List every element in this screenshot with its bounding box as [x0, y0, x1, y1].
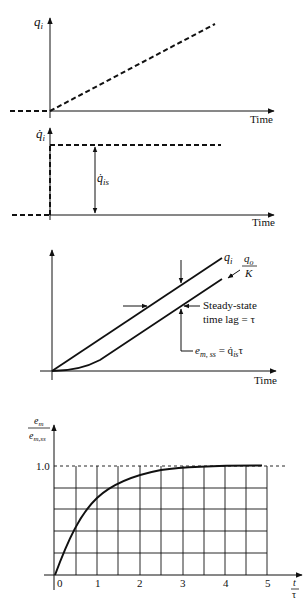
step-height-label: q̇is — [97, 171, 110, 187]
y-label-num: em — [34, 415, 44, 428]
svg-text:2: 2 — [137, 577, 143, 589]
x-axis-label: Time — [254, 374, 277, 386]
y-tick-1: 1.0 — [36, 460, 50, 472]
x-axis-label: Time — [250, 113, 273, 125]
grid — [54, 466, 267, 575]
panel-normalized-error: em em,ss 1.0 0 1 2 3 4 5 t τ — [28, 415, 302, 600]
y-axis-label: qi — [34, 14, 44, 31]
panel-ramp-input: qi Time — [10, 14, 274, 125]
ramp-line — [50, 24, 215, 111]
svg-text:5: 5 — [265, 577, 271, 589]
y-axis-label: q̇i — [36, 126, 46, 143]
svg-text:1: 1 — [95, 577, 101, 589]
output-curve-label-num: qo — [244, 252, 254, 267]
output-curve-qo-over-K — [52, 279, 222, 371]
svg-text:0: 0 — [57, 577, 63, 589]
panel-response: qi qo K Steady-state time lag = τ em, ss… — [40, 250, 277, 386]
y-label-den: em,ss — [29, 430, 46, 443]
x-axis-label: Time — [252, 216, 275, 228]
lag-label-line1: Steady-state — [203, 299, 257, 311]
error-leader — [181, 309, 193, 351]
output-label-pointer — [228, 270, 240, 278]
error-label: em, ss = q̇isτ — [195, 344, 243, 359]
panel-rate-input: q̇i q̇is Time — [12, 126, 275, 228]
error-curve — [55, 466, 262, 576]
output-curve-label-den: K — [244, 267, 253, 279]
x-label-den: τ — [292, 589, 296, 600]
x-label-num: t — [293, 577, 296, 588]
input-curve-label: qi — [224, 250, 233, 266]
svg-text:4: 4 — [223, 577, 229, 589]
svg-text:3: 3 — [180, 577, 186, 589]
figure: qi Time q̇i q̇is Time qi qo K Steady-sta… — [0, 0, 308, 608]
lag-label-line2: time lag = τ — [203, 313, 255, 325]
x-ticks: 0 1 2 3 4 5 — [57, 577, 271, 589]
